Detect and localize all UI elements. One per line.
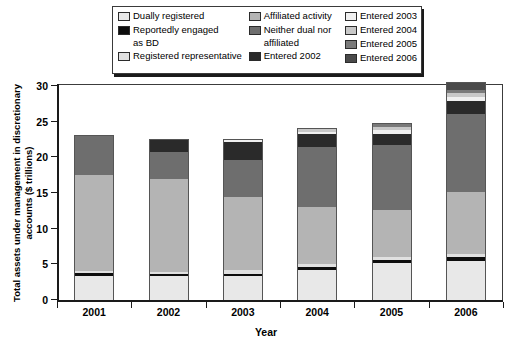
- legend-item[interactable]: Neither dual noraffiliated: [249, 24, 345, 50]
- x-axis-tick-label: 2004: [287, 306, 347, 318]
- bar-segment: [298, 207, 336, 264]
- legend-item-label: Reportedly engagedas BD: [133, 24, 219, 49]
- x-axis-tick: [354, 302, 355, 308]
- bar-2002[interactable]: [149, 139, 189, 300]
- plot-area: 051015202530: [57, 84, 503, 302]
- x-axis-tick-label: 2005: [362, 306, 422, 318]
- legend-item-label: Entered 2002: [264, 50, 321, 63]
- bar-2004[interactable]: [297, 128, 337, 300]
- legend-swatch-icon: [249, 52, 261, 61]
- legend-item-label: Dually registered: [133, 10, 204, 23]
- legend-item[interactable]: Affiliated activity: [249, 10, 345, 24]
- y-axis-tick: [51, 299, 57, 300]
- y-axis-tick: [51, 263, 57, 264]
- legend-column: Entered 2003Entered 2004Entered 2005Ente…: [345, 10, 417, 71]
- legend-item-label: Entered 2006: [360, 52, 417, 65]
- legend-item-label: Entered 2003: [360, 10, 417, 23]
- bar-2005[interactable]: [372, 123, 412, 300]
- x-axis-tick: [280, 302, 281, 308]
- x-axis-tick-label: 2006: [436, 306, 496, 318]
- bar-2003[interactable]: [223, 139, 263, 300]
- y-axis-tick-label: 0: [42, 294, 48, 306]
- x-axis-tick-label: 2001: [64, 306, 124, 318]
- bar-segment: [75, 136, 113, 175]
- bar-segment: [150, 152, 188, 179]
- y-axis-title: Total assets under management in discret…: [6, 84, 40, 302]
- legend-swatch-icon: [345, 12, 357, 21]
- y-axis-tick-label: 30: [36, 80, 48, 92]
- y-axis-tick: [51, 156, 57, 157]
- legend-item[interactable]: Entered 2004: [345, 24, 417, 38]
- y-axis-tick: [51, 228, 57, 229]
- y-axis-tick-label: 25: [36, 116, 48, 128]
- plot-frame: [57, 84, 503, 302]
- legend-item[interactable]: Entered 2002: [249, 50, 345, 64]
- legend-swatch-icon: [345, 54, 357, 63]
- legend-swatch-icon: [249, 12, 261, 21]
- y-axis-tick: [51, 85, 57, 86]
- y-axis-tick-label: 5: [42, 258, 48, 270]
- x-axis-tick-label: 2003: [213, 306, 273, 318]
- legend-swatch-icon: [249, 26, 261, 35]
- x-axis-tick-label: 2002: [139, 306, 199, 318]
- legend-swatch-icon: [118, 26, 130, 35]
- y-axis-tick: [51, 121, 57, 122]
- legend-item-label: Affiliated activity: [264, 10, 332, 23]
- bar-segment: [224, 142, 262, 161]
- legend-item-label: Entered 2004: [360, 24, 417, 37]
- bar-segment: [75, 276, 113, 300]
- bar-segment: [447, 101, 485, 114]
- legend-swatch-icon: [345, 40, 357, 49]
- bar-segment: [224, 160, 262, 196]
- bar-segment: [224, 197, 262, 270]
- bar-segment: [224, 276, 262, 300]
- y-axis-tick-label: 10: [36, 223, 48, 235]
- x-axis-tick: [131, 302, 132, 308]
- bar-segment: [447, 114, 485, 192]
- bar-segment: [150, 140, 188, 152]
- legend-column: Dually registeredReportedly engagedas BD…: [118, 10, 249, 71]
- legend-item[interactable]: Dually registered: [118, 10, 249, 24]
- legend-item-label: Registered representative: [133, 50, 242, 63]
- bar-segment: [447, 83, 485, 91]
- x-axis-title: Year: [0, 326, 532, 338]
- bar-segment: [373, 263, 411, 300]
- bar-segment: [447, 261, 485, 300]
- y-axis-tick-label: 15: [36, 187, 48, 199]
- x-axis-tick: [429, 302, 430, 308]
- chart-legend: Dually registeredReportedly engagedas BD…: [112, 6, 422, 74]
- bar-segment: [298, 147, 336, 207]
- bar-segment: [298, 134, 336, 147]
- legend-swatch-icon: [118, 12, 130, 21]
- bar-2006[interactable]: [446, 82, 486, 300]
- bar-2001[interactable]: [74, 135, 114, 300]
- bar-segment: [373, 134, 411, 145]
- legend-item[interactable]: Entered 2005: [345, 38, 417, 52]
- bar-segment: [150, 179, 188, 272]
- legend-swatch-icon: [118, 52, 130, 61]
- bar-segment: [373, 210, 411, 257]
- legend-item-label: Entered 2005: [360, 38, 417, 51]
- x-axis-tick: [206, 302, 207, 308]
- legend-item-label: Neither dual noraffiliated: [264, 24, 332, 49]
- bar-segment: [298, 270, 336, 300]
- legend-swatch-icon: [345, 26, 357, 35]
- y-axis-line: [57, 84, 59, 302]
- y-axis-tick: [51, 192, 57, 193]
- y-axis-tick-label: 20: [36, 151, 48, 163]
- legend-item[interactable]: Entered 2006: [345, 52, 417, 66]
- bar-segment: [150, 276, 188, 300]
- x-axis-tick: [503, 302, 504, 308]
- bar-segment: [373, 145, 411, 210]
- bar-segment: [447, 192, 485, 254]
- legend-column: Affiliated activityNeither dual noraffil…: [249, 10, 345, 71]
- legend-item[interactable]: Entered 2003: [345, 10, 417, 24]
- legend-item[interactable]: Registered representative: [118, 50, 249, 64]
- bar-segment: [75, 175, 113, 271]
- legend-item[interactable]: Reportedly engagedas BD: [118, 24, 249, 50]
- x-axis-tick: [57, 302, 58, 308]
